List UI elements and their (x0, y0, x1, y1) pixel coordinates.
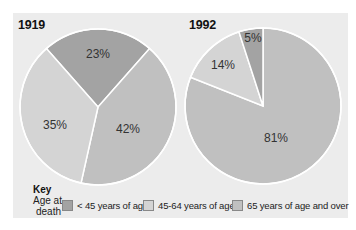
label-1992-45-64: 14% (211, 58, 235, 72)
label-1919-45-64: 35% (43, 118, 67, 132)
label-1919-65plus: 42% (116, 122, 140, 136)
pie-charts: 23% 35% 42% 5% 14% 81% (0, 0, 356, 230)
label-1992-65plus: 81% (264, 131, 288, 145)
label-1992-lt45: 5% (244, 31, 262, 45)
pie-1992: 5% 14% 81% (185, 28, 341, 184)
label-1919-lt45: 23% (86, 47, 110, 61)
pie-1919: 23% 35% 42% (20, 29, 176, 185)
